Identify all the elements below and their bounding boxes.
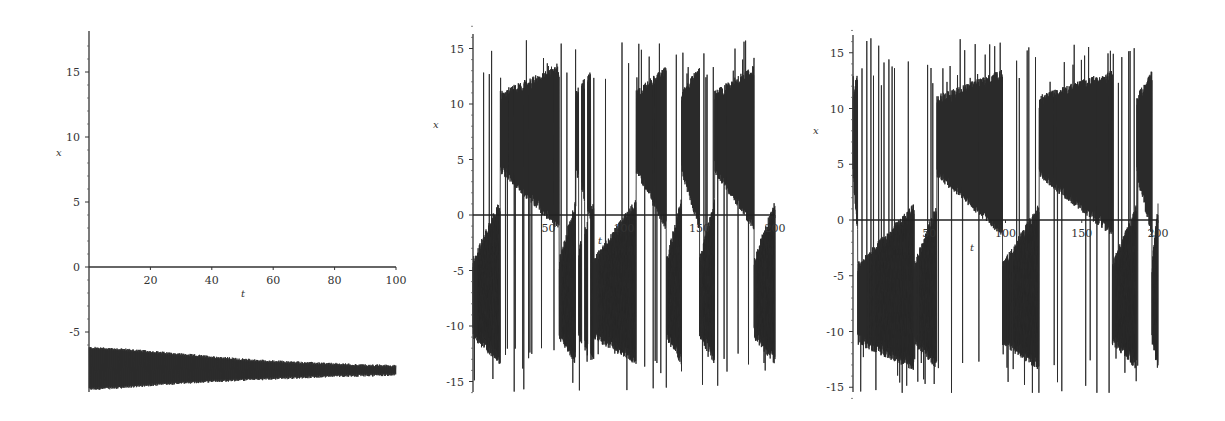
x-tick-label: 50 <box>922 227 936 240</box>
x-tick-label: 200 <box>765 222 786 235</box>
x-axis-label: t <box>970 242 975 253</box>
y-axis-label: x <box>433 119 439 130</box>
plot-panel-middle: 50100150200-15-10-5051015 x t <box>410 0 810 421</box>
y-tick-label: -5 <box>69 326 80 339</box>
chart-middle: 50100150200-15-10-5051015 x t <box>410 0 810 421</box>
x-tick-label: 40 <box>205 274 219 287</box>
y-tick-label: 15 <box>66 66 80 79</box>
y-tick-label: 10 <box>830 103 844 116</box>
y-tick-label: -15 <box>826 381 844 394</box>
trace-band <box>89 347 396 390</box>
x-tick-label: 80 <box>328 274 342 287</box>
y-tick-label: 0 <box>457 209 464 222</box>
y-tick-label: -10 <box>826 326 844 339</box>
y-tick-label: 0 <box>837 214 844 227</box>
axis-ticks: 20406080100-5051015 <box>66 46 407 345</box>
chart-right: 50100150200-15-10-5051015 x t <box>810 0 1225 421</box>
plot-panel-left: 20406080100-5051015 x t <box>0 0 410 421</box>
x-tick-label: 50 <box>542 222 556 235</box>
x-tick-label: 150 <box>1071 227 1092 240</box>
y-tick-label: 0 <box>73 261 80 274</box>
x-tick-label: 200 <box>1148 227 1169 240</box>
x-tick-label: 60 <box>266 274 280 287</box>
y-tick-label: -5 <box>453 265 464 278</box>
y-tick-label: -5 <box>833 270 844 283</box>
y-axis-label: x <box>56 147 62 158</box>
y-tick-label: -10 <box>446 320 464 333</box>
x-tick-label: 150 <box>689 222 710 235</box>
y-tick-label: 15 <box>830 47 844 60</box>
trace-chaotic <box>853 38 1158 393</box>
y-tick-label: -15 <box>446 376 464 389</box>
y-tick-label: 15 <box>450 43 464 56</box>
x-tick-label: 100 <box>614 222 635 235</box>
x-tick-label: 100 <box>386 274 407 287</box>
x-axis-label: t <box>598 235 603 246</box>
plot-panel-right: 50100150200-15-10-5051015 x t <box>810 0 1225 421</box>
y-tick-label: 5 <box>73 196 80 209</box>
x-tick-label: 20 <box>143 274 157 287</box>
x-axis-label: t <box>241 288 246 299</box>
y-tick-label: 5 <box>457 154 464 167</box>
x-tick-label: 100 <box>995 227 1016 240</box>
y-tick-label: 10 <box>450 98 464 111</box>
chart-left: 20406080100-5051015 x t <box>0 0 410 421</box>
y-axis-label: x <box>813 125 819 136</box>
y-tick-label: 10 <box>66 131 80 144</box>
y-tick-label: 5 <box>837 158 844 171</box>
